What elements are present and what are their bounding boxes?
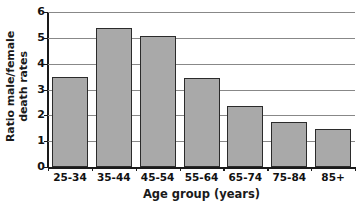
x-tick-label-75-84: 75-84 — [267, 171, 311, 184]
y-tick-label-3: 3 — [31, 85, 45, 95]
y-axis-title-text: Ratio male/female death rates — [6, 30, 31, 141]
y-tick-label-5: 5 — [31, 33, 45, 43]
bar-35-44 — [96, 28, 132, 168]
x-tick-label-25-34: 25-34 — [48, 171, 92, 184]
bar-85+ — [315, 129, 351, 167]
gridline-5 — [48, 38, 355, 39]
x-tick-mark-7 — [355, 167, 356, 171]
x-tick-label-35-44: 35-44 — [92, 171, 136, 184]
y-tick-mark-6 — [44, 12, 48, 13]
bar-65-74 — [227, 106, 263, 167]
x-axis-title: Age group (years) — [48, 187, 355, 201]
y-tick-label-1: 1 — [31, 136, 45, 146]
y-tick-label-0: 0 — [31, 162, 45, 172]
x-tick-label-55-64: 55-64 — [180, 171, 224, 184]
bar-55-64 — [184, 78, 220, 167]
x-axis-tick-labels: 25-3435-4445-5455-6465-7475-8485+ — [48, 171, 355, 185]
bar-75-84 — [271, 122, 307, 167]
y-tick-mark-4 — [44, 64, 48, 65]
x-tick-label-45-54: 45-54 — [136, 171, 180, 184]
y-axis-title-line-2: death rates — [18, 30, 31, 141]
gridline-4 — [48, 64, 355, 65]
y-tick-mark-3 — [44, 90, 48, 91]
bar-chart: Ratio male/female death rates 0123456 25… — [0, 0, 361, 208]
bar-25-34 — [52, 77, 88, 167]
y-tick-mark-2 — [44, 115, 48, 116]
y-tick-label-6: 6 — [31, 7, 45, 17]
plot-area — [48, 12, 355, 167]
x-tick-label-85+: 85+ — [311, 171, 355, 184]
y-axis-tick-labels: 0123456 — [30, 0, 45, 208]
y-tick-label-4: 4 — [31, 59, 45, 69]
bar-45-54 — [140, 36, 176, 167]
y-tick-label-2: 2 — [31, 110, 45, 120]
x-tick-label-65-74: 65-74 — [223, 171, 267, 184]
y-tick-mark-5 — [44, 38, 48, 39]
gridline-6 — [48, 12, 355, 13]
y-tick-mark-1 — [44, 141, 48, 142]
